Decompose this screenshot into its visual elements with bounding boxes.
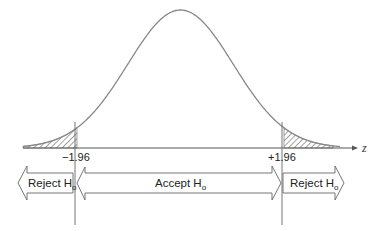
z-axis-label: z [361,141,367,155]
critical-value-right: +1.96 [268,151,296,163]
normal-distribution-diagram: z −1.96 +1.96 Reject Ho Accept Ho Reject… [0,0,376,231]
critical-value-left: −1.96 [62,151,90,163]
bell-curve [23,10,340,147]
z-axis-arrowhead [352,146,358,151]
